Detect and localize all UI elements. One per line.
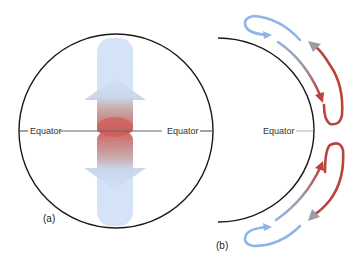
panel-a-label: (a) — [43, 213, 55, 224]
warm-flow-south — [315, 143, 343, 214]
panel-b-label: (b) — [216, 240, 228, 251]
cold-return-flow — [245, 16, 300, 40]
diagram: Equator Equator (a) Equator (b) — [0, 0, 358, 261]
arrowhead-icon — [263, 223, 272, 231]
cold-return-flow-south — [245, 226, 300, 246]
panel-a: Equator Equator (a) — [19, 34, 213, 228]
equator-label-right: Equator — [167, 126, 199, 136]
arrowhead-icon — [263, 31, 272, 39]
arrowhead-icon — [315, 161, 324, 171]
equator-label-left: Equator — [30, 126, 62, 136]
panel-b: Equator (b) — [216, 16, 343, 251]
descending-arrow-icon — [84, 130, 146, 190]
northern-circulation-cell — [245, 16, 342, 124]
southern-circulation-cell — [245, 143, 343, 246]
arrowhead-icon — [315, 92, 324, 103]
equator-warm-zone — [97, 117, 133, 137]
equator-label-b: Equator — [263, 126, 295, 136]
warm-rising-flow — [316, 47, 342, 124]
